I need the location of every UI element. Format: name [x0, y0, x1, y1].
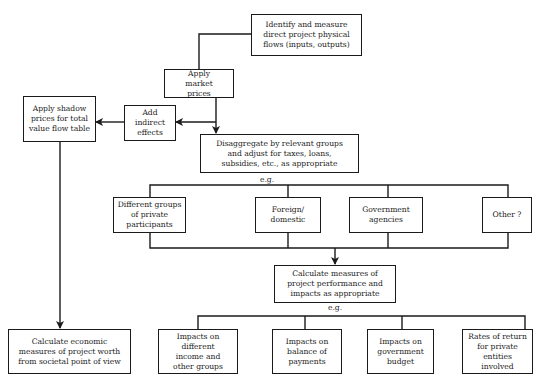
eg-label-groups: e.g.	[257, 175, 277, 185]
group-foreign-domestic-box: Foreign/ domestic	[255, 197, 321, 233]
impact-balance-payments-box: Impacts on balance of payments	[272, 329, 342, 374]
group-other-box: Other ?	[482, 197, 532, 233]
eg-label-impacts: e.g.	[325, 303, 345, 313]
impact-income-groups-box: Impacts on different income and other gr…	[158, 329, 238, 374]
group-private-participants-box: Different groups of private participants	[113, 197, 186, 233]
identify-flows-box: Identify and measure direct project phys…	[251, 14, 362, 56]
apply-market-prices-box: Apply market prices	[164, 69, 234, 98]
group-government-agencies-box: Government agencies	[349, 197, 423, 233]
impact-government-budget-box: Impacts on government budget	[367, 329, 434, 374]
add-indirect-effects-box: Add indirect effects	[124, 105, 176, 141]
rates-of-return-box: Rates of return for private entities inv…	[462, 329, 533, 374]
apply-shadow-prices-box: Apply shadow prices for total value flow…	[23, 96, 96, 142]
disaggregate-box: Disaggregate by relevant groups and adju…	[200, 134, 359, 173]
calculate-economic-measures-box: Calculate economic measures of project w…	[8, 329, 131, 374]
calculate-performance-box: Calculate measures of project performanc…	[274, 265, 396, 303]
